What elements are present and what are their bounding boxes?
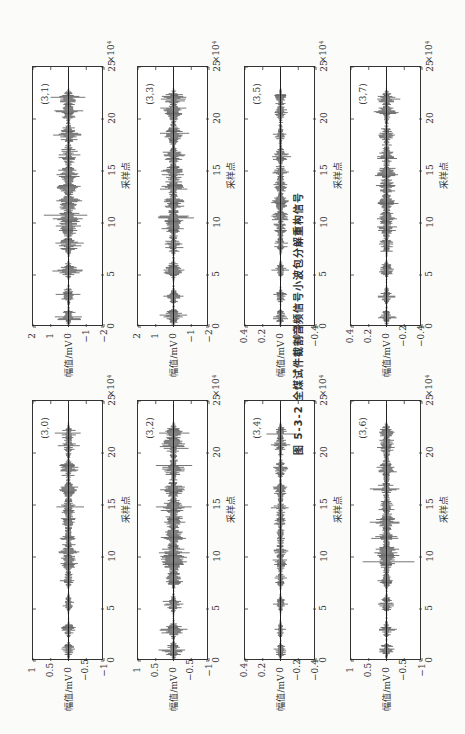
x-axis-label: 采样点 — [119, 162, 132, 189]
x-exponent-label: ×10⁴ — [211, 41, 221, 64]
y-tick-label: −1 — [416, 663, 426, 676]
y-axis-label: 幅值/mV — [379, 674, 392, 710]
y-tick-label: −0.4 — [310, 325, 320, 347]
x-tick-label: 10 — [106, 550, 116, 561]
x-tick-label: 5 — [211, 271, 221, 277]
y-tick-label: 0 — [380, 667, 390, 673]
x-tick-label: 0 — [211, 323, 221, 329]
y-tick-label: 0 — [380, 333, 390, 339]
y-axis-label: 幅值/mV — [61, 340, 74, 376]
signal-trace — [245, 67, 316, 327]
x-tick-label: 15 — [211, 164, 221, 175]
y-tick-label: 2 — [27, 333, 37, 339]
x-tick-label: 20 — [318, 446, 328, 457]
signal-trace — [138, 67, 209, 327]
subplot-label: (3,3) — [144, 83, 154, 104]
subplot-label: (3,6) — [357, 417, 367, 438]
plot-area — [350, 400, 421, 660]
x-tick-label: 20 — [211, 446, 221, 457]
y-tick-label: 0.4 — [239, 329, 249, 343]
subplot-label: (3,0) — [39, 417, 49, 438]
signal-trace — [351, 401, 422, 661]
plot-area — [244, 66, 315, 326]
x-axis-label: 采样点 — [437, 496, 450, 523]
y-tick-label: −1 — [80, 329, 90, 342]
x-tick-label: 0 — [211, 657, 221, 663]
signal-trace — [138, 401, 209, 661]
plot-area — [137, 400, 208, 660]
signal-trace — [33, 401, 104, 661]
y-tick-label: 1 — [345, 667, 355, 673]
y-tick-label: 0 — [62, 333, 72, 339]
x-tick-label: 20 — [106, 446, 116, 457]
subplot-label: (3,4) — [251, 417, 261, 438]
subplot-label: (3,5) — [251, 83, 261, 104]
x-tick-label: 15 — [318, 164, 328, 175]
x-tick-label: 20 — [424, 112, 434, 123]
figure-page: (3,1)0510152025×10⁴210−1−2幅值/mV采样点(3,3)0… — [0, 0, 465, 734]
y-tick-label: −1 — [185, 329, 195, 342]
x-axis-label: 采样点 — [331, 162, 344, 189]
y-tick-label: −1 — [98, 663, 108, 676]
x-tick-label: 15 — [424, 164, 434, 175]
y-tick-label: 0.2 — [363, 329, 373, 343]
x-axis-label: 采样点 — [119, 496, 132, 523]
x-axis-label: 采样点 — [331, 496, 344, 523]
plot-area — [32, 66, 103, 326]
signal-trace — [351, 67, 422, 327]
x-tick-label: 0 — [106, 323, 116, 329]
y-axis-label: 幅值/mV — [273, 674, 286, 710]
y-tick-label: 1 — [27, 667, 37, 673]
y-axis-label: 幅值/mV — [166, 340, 179, 376]
y-tick-label: 0.2 — [257, 329, 267, 343]
y-tick-label: 0.4 — [345, 329, 355, 343]
x-exponent-label: ×10⁴ — [424, 41, 434, 64]
y-axis-label: 幅值/mV — [61, 674, 74, 710]
y-tick-label: 0.5 — [45, 663, 55, 677]
y-tick-label: 0 — [167, 333, 177, 339]
y-tick-label: 0 — [62, 667, 72, 673]
y-tick-label: −2 — [203, 329, 213, 342]
x-tick-label: 10 — [211, 216, 221, 227]
y-tick-label: −0.2 — [292, 659, 302, 681]
x-axis-label: 采样点 — [224, 496, 237, 523]
plot-area — [32, 400, 103, 660]
x-tick-label: 0 — [106, 657, 116, 663]
x-tick-label: 0 — [424, 657, 434, 663]
plot-area — [137, 66, 208, 326]
x-tick-label: 20 — [106, 112, 116, 123]
x-tick-label: 5 — [424, 271, 434, 277]
x-tick-label: 5 — [211, 605, 221, 611]
x-exponent-label: ×10⁴ — [318, 41, 328, 64]
y-tick-label: −0.5 — [80, 659, 90, 681]
y-axis-label: 幅值/mV — [166, 674, 179, 710]
plot-area — [244, 400, 315, 660]
y-tick-label: −0.4 — [416, 325, 426, 347]
y-tick-label: −0.2 — [398, 325, 408, 347]
x-tick-label: 5 — [106, 605, 116, 611]
x-tick-label: 10 — [424, 550, 434, 561]
y-tick-label: 0 — [274, 333, 284, 339]
x-tick-label: 5 — [106, 271, 116, 277]
x-exponent-label: ×10⁴ — [211, 375, 221, 398]
y-axis-label: 幅值/mV — [379, 340, 392, 376]
x-exponent-label: ×10⁴ — [106, 375, 116, 398]
x-tick-label: 15 — [424, 498, 434, 509]
y-tick-label: −0.4 — [310, 659, 320, 681]
signal-trace — [33, 67, 104, 327]
x-tick-label: 20 — [318, 112, 328, 123]
x-exponent-label: ×10⁴ — [106, 41, 116, 64]
y-tick-label: 0 — [274, 667, 284, 673]
y-tick-label: −0.5 — [398, 659, 408, 681]
y-tick-label: 0 — [167, 667, 177, 673]
x-tick-label: 10 — [106, 216, 116, 227]
y-tick-label: 0.5 — [150, 663, 160, 677]
plot-area — [350, 66, 421, 326]
y-tick-label: 1 — [45, 333, 55, 339]
x-tick-label: 20 — [211, 112, 221, 123]
x-tick-label: 15 — [106, 164, 116, 175]
figure-caption: 图 5-3-2 全煤试件截割音频信号小波包分解重构信号 — [290, 95, 304, 455]
y-tick-label: 1 — [150, 333, 160, 339]
y-tick-label: 0.4 — [239, 663, 249, 677]
x-tick-label: 10 — [318, 550, 328, 561]
